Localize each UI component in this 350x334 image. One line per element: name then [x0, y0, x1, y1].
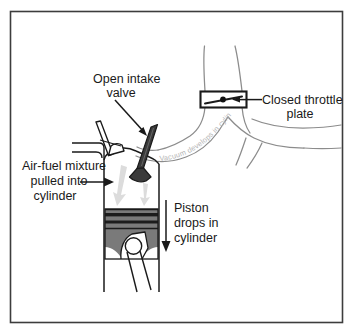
closed-throttle-plate-label-line2: plate [286, 107, 313, 121]
engine-intake-stroke-diagram: Vacuum develops in cylinder Open intake … [0, 0, 350, 334]
closed-throttle-plate-label-line1: Closed throttle [262, 93, 343, 107]
open-intake-valve-label-line1: Open intake [93, 72, 160, 86]
air-fuel-mixture-label-line3: cylinder [33, 189, 76, 203]
throttle-pivot [220, 97, 226, 103]
wrist-pin [125, 238, 141, 254]
air-fuel-mixture-label-line1: Air-fuel mixture [22, 159, 106, 173]
diagram-canvas: Vacuum develops in cylinder Open intake … [0, 0, 350, 334]
open-intake-valve-label-line2: valve [106, 86, 135, 100]
piston-ring-top [105, 213, 158, 216]
piston-drops-label-line3: cylinder [174, 231, 217, 245]
piston-drops-label-line2: drops in [174, 216, 219, 230]
piston-ring-second [105, 221, 158, 224]
piston-drops-label-line1: Piston [174, 201, 209, 215]
air-fuel-mixture-label-line2: pulled into [31, 174, 88, 188]
